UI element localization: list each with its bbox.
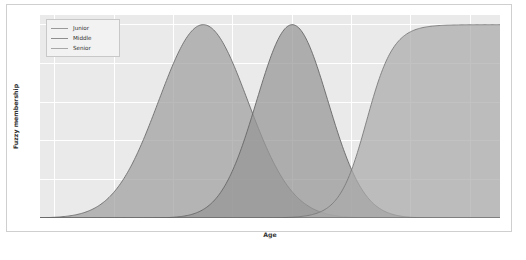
legend-item-middle[interactable]: Middle — [51, 33, 115, 43]
legend-label-senior: Senior — [73, 45, 91, 51]
legend-swatch-senior — [51, 48, 68, 49]
legend-label-middle: Middle — [73, 35, 91, 41]
legend-label-junior: Junior — [73, 25, 89, 31]
y-axis-label-text: Fuzzy membership — [13, 84, 20, 149]
legend: Junior Middle Senior — [46, 19, 120, 57]
y-axis-label: Fuzzy membership — [11, 15, 21, 218]
legend-item-senior[interactable]: Senior — [51, 43, 115, 53]
legend-swatch-middle — [51, 38, 68, 39]
x-axis-label: Age — [40, 231, 500, 238]
chart-figure: Fuzzy membership Junior Middle Senior 0.… — [6, 4, 512, 232]
legend-swatch-junior — [51, 28, 68, 29]
legend-item-junior[interactable]: Junior — [51, 23, 115, 33]
plot-area: Junior Middle Senior 0.00.20.40.60.81.00… — [40, 15, 500, 218]
